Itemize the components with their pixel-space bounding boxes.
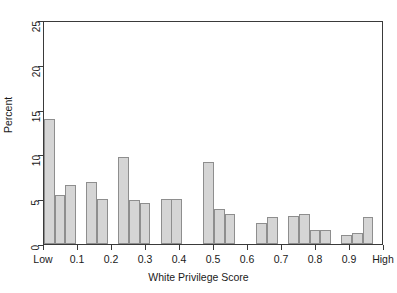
histogram-bar — [288, 216, 299, 244]
y-tick-label: 5 — [31, 200, 42, 206]
x-tick-label: 0.7 — [274, 253, 289, 265]
x-tick-label: 0.9 — [342, 253, 357, 265]
x-tick-label: High — [372, 253, 394, 265]
x-tick-label: 0.2 — [104, 253, 119, 265]
x-tick-mark — [145, 245, 146, 250]
x-tick-mark — [349, 245, 350, 250]
histogram-bar — [129, 200, 140, 244]
histogram-bar — [299, 214, 310, 244]
x-tick-mark — [111, 245, 112, 250]
x-tick-label: 0.3 — [138, 253, 153, 265]
histogram-bar — [203, 162, 214, 244]
bars-layer — [44, 22, 382, 244]
histogram-bar — [310, 230, 321, 244]
histogram-bar — [86, 182, 97, 244]
y-tick-label: 15 — [31, 111, 42, 122]
x-tick-mark — [315, 245, 316, 250]
plot-area — [43, 21, 383, 245]
x-tick-label: 0.5 — [206, 253, 221, 265]
histogram-bar — [214, 209, 225, 244]
histogram-bar — [225, 214, 236, 244]
histogram-bar — [161, 199, 172, 244]
x-tick-label: Low — [33, 253, 52, 265]
histogram-bar — [140, 203, 151, 244]
histogram-bar — [267, 217, 278, 244]
histogram-bar — [97, 199, 108, 244]
histogram-figure: Percent 0510152025 Low0.10.20.30.40.50.6… — [0, 0, 397, 293]
x-axis: Low0.10.20.30.40.50.60.70.80.9High — [0, 245, 397, 293]
x-tick-label: 0.6 — [240, 253, 255, 265]
y-tick-label: 25 — [31, 21, 42, 32]
histogram-bar — [352, 233, 363, 244]
x-tick-mark — [43, 245, 44, 250]
histogram-bar — [55, 195, 66, 244]
histogram-bar — [363, 217, 374, 244]
histogram-bar — [171, 199, 182, 244]
histogram-bar — [65, 185, 76, 244]
x-tick-label: 0.8 — [308, 253, 323, 265]
x-axis-title: White Privilege Score — [0, 271, 397, 283]
histogram-bar — [320, 230, 331, 244]
y-tick-label: 10 — [31, 155, 42, 166]
x-tick-label: 0.1 — [70, 253, 85, 265]
x-tick-mark — [281, 245, 282, 250]
histogram-bar — [341, 235, 352, 244]
x-tick-mark — [179, 245, 180, 250]
histogram-bar — [256, 223, 267, 245]
histogram-bar — [118, 157, 129, 244]
histogram-bar — [44, 119, 55, 244]
x-tick-mark — [213, 245, 214, 250]
x-tick-mark — [383, 245, 384, 250]
x-tick-label: 0.4 — [172, 253, 187, 265]
y-tick-label: 20 — [31, 66, 42, 77]
x-tick-mark — [77, 245, 78, 250]
x-tick-mark — [247, 245, 248, 250]
